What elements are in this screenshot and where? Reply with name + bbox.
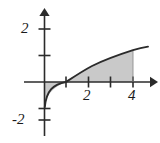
y-axis-label-2: 2 <box>21 21 29 36</box>
y-axis-label-minus-2: -2 <box>12 112 25 127</box>
graph-figure: 2 -2 2 4 <box>0 0 160 143</box>
x-axis-label-4: 4 <box>128 88 136 103</box>
x-axis-label-2: 2 <box>83 88 91 103</box>
x-axis-arrow-icon <box>150 77 158 87</box>
shaded-region-above-axis <box>66 50 133 82</box>
y-axis-arrow-icon <box>39 8 49 16</box>
